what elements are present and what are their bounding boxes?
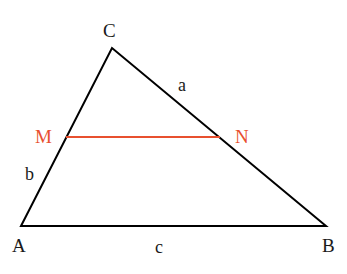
- side-label-a: a: [178, 75, 186, 95]
- side-label-c: c: [155, 237, 163, 257]
- vertex-label-c: C: [103, 20, 116, 41]
- vertex-label-b: B: [322, 235, 335, 256]
- side-label-b: b: [25, 164, 34, 184]
- vertex-label-a: A: [12, 235, 26, 256]
- point-label-n: N: [235, 126, 249, 147]
- point-label-m: M: [35, 126, 52, 147]
- triangle-diagram: C A B M N a b c: [0, 0, 347, 274]
